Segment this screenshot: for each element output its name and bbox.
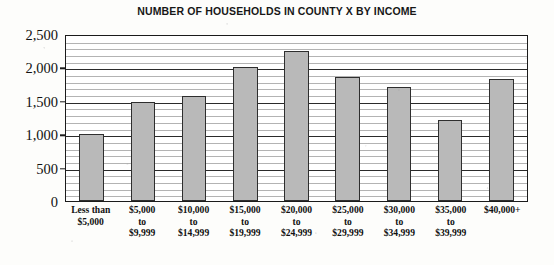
x-tick-label: $20,000 to $24,999 bbox=[271, 204, 322, 239]
x-axis: Less than $5,000$5,000 to $9,999$10,000 … bbox=[65, 204, 528, 239]
y-tick-label: 2,000 bbox=[25, 60, 58, 77]
bar-slot bbox=[117, 36, 168, 201]
bar-slot bbox=[271, 36, 322, 201]
bar-slot bbox=[425, 36, 476, 201]
y-tick-label: 500 bbox=[36, 160, 58, 177]
bar-slot bbox=[476, 36, 527, 201]
x-tick-label: $35,000 to $39,999 bbox=[425, 204, 476, 239]
x-tick-label: $10,000 to $14,999 bbox=[168, 204, 219, 239]
y-axis: 05001,0001,5002,0002,500 bbox=[0, 0, 62, 265]
x-tick-label: $40,000+ bbox=[477, 204, 528, 239]
x-tick-label: $30,000 to $34,999 bbox=[374, 204, 425, 239]
x-tick-label: $15,000 to $19,999 bbox=[219, 204, 270, 239]
bar bbox=[387, 87, 412, 201]
bar bbox=[489, 79, 514, 201]
x-tick-label: $5,000 to $9,999 bbox=[116, 204, 167, 239]
x-tick-label: $25,000 to $29,999 bbox=[322, 204, 373, 239]
bar-slot bbox=[220, 36, 271, 201]
bar bbox=[438, 120, 463, 201]
bar-slot bbox=[373, 36, 424, 201]
bar-slot bbox=[322, 36, 373, 201]
y-tick-label: 1,000 bbox=[25, 127, 58, 144]
y-tick-label: 0 bbox=[51, 194, 58, 211]
y-tick-label: 2,500 bbox=[25, 27, 58, 44]
bar-slot bbox=[168, 36, 219, 201]
bar bbox=[79, 134, 104, 201]
bar bbox=[335, 77, 360, 201]
x-tick-label: Less than $5,000 bbox=[65, 204, 116, 239]
bar bbox=[182, 96, 207, 201]
bar bbox=[131, 102, 156, 201]
y-tick-label: 1,500 bbox=[25, 93, 58, 110]
chart-title: NUMBER OF HOUSEHOLDS IN COUNTY X BY INCO… bbox=[0, 5, 554, 17]
bar bbox=[284, 51, 309, 201]
bar-slot bbox=[66, 36, 117, 201]
bar bbox=[233, 67, 258, 201]
bar-series bbox=[66, 36, 527, 201]
plot-area bbox=[65, 35, 528, 202]
